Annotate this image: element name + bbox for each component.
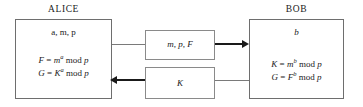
alice-formula-1-modulus: p xyxy=(84,55,89,65)
message-bob-to-alice-text: K xyxy=(145,78,215,88)
alice-formula-2-modulus: p xyxy=(84,68,89,78)
arrowhead-to-alice-icon xyxy=(110,76,117,84)
bob-formula-2: G = Fb mod p xyxy=(249,72,344,82)
bob-formula-2-mod: mod xyxy=(299,72,315,82)
connector-bob-to-message-bottom xyxy=(215,80,249,81)
alice-formula-2-mod: mod xyxy=(66,68,82,78)
alice-formula-1-mod: mod xyxy=(66,55,82,65)
alice-formula-1: F = ma mod p xyxy=(15,55,112,65)
alice-label: ALICE xyxy=(15,4,112,14)
bob-formula-1: K = mb mod p xyxy=(249,59,344,69)
arrowhead-to-bob-icon xyxy=(242,40,249,48)
bob-formula-1-mod: mod xyxy=(299,59,315,69)
alice-secrets: a, m, p xyxy=(15,27,112,37)
bob-formula-2-modulus: p xyxy=(317,72,322,82)
bob-label: BOB xyxy=(249,4,344,14)
alice-formula-2: G = Ka mod p xyxy=(15,68,112,78)
bob-formula-1-modulus: p xyxy=(317,59,322,69)
diffie-hellman-key-exchange-diagram: ALICE BOB a, m, p F = ma mod p G = Ka mo… xyxy=(0,0,363,107)
message-bob-to-alice-value: K xyxy=(177,78,183,88)
bob-secrets: b xyxy=(249,27,344,37)
connector-message-bottom-to-alice xyxy=(117,79,145,81)
message-alice-to-bob-value: m, p, F xyxy=(167,39,193,49)
connector-message-top-to-bob xyxy=(215,43,243,45)
message-alice-to-bob-text: m, p, F xyxy=(145,39,215,49)
connector-alice-to-message-top xyxy=(112,44,145,45)
